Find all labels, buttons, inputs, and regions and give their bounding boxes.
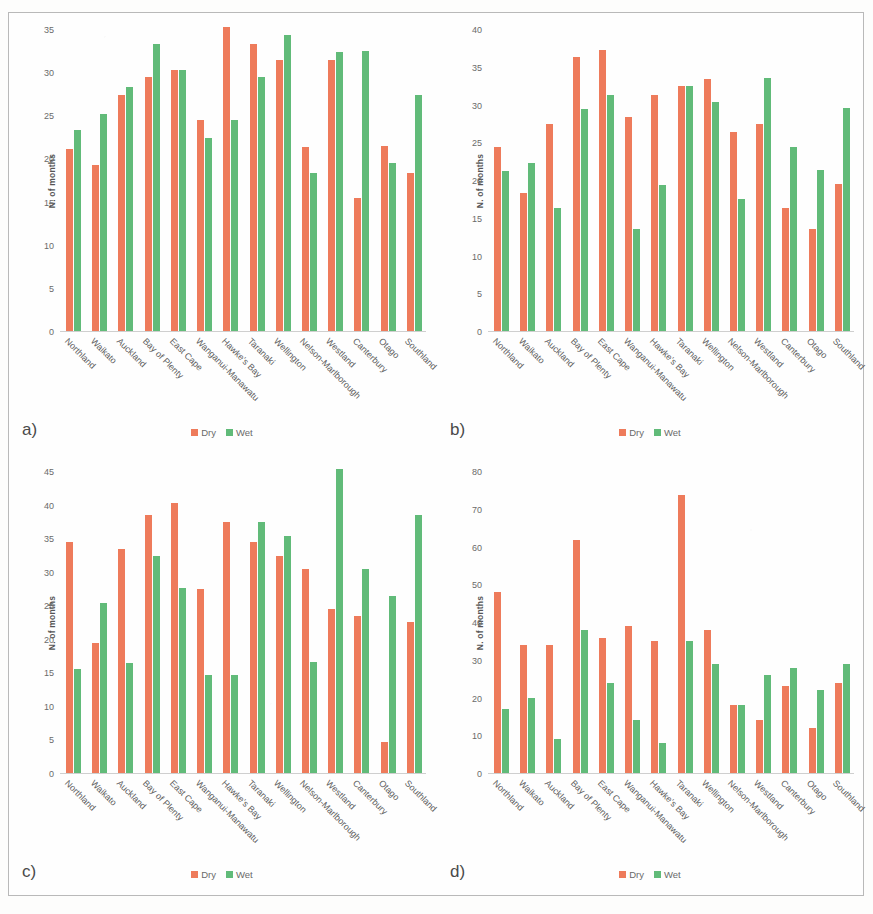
legend-item-dry: Dry [619,427,644,438]
bar-dry [678,495,685,773]
y-tick-label: 20 [472,176,482,186]
chart-legend: DryWet [8,427,436,438]
chart-panel-c: N. of months051015202530354045NorthlandW… [8,454,436,896]
y-tick-label: 15 [472,214,482,224]
chart-legend: DryWet [436,427,864,438]
y-tick-label: 25 [44,111,54,121]
plot-canvas [60,472,426,774]
bar-wet [336,52,343,331]
y-tick-label: 5 [49,284,54,294]
bar-group [92,472,107,773]
bar-wet [790,668,797,773]
bar-group [66,472,81,773]
x-tick-label: Southland [831,778,867,814]
bar-group [809,30,824,331]
bar-dry [756,124,763,331]
bar-wet [607,95,614,331]
bar-dry [92,165,99,331]
bar-wet [126,87,133,331]
bar-group [328,472,343,773]
bar-group [354,472,369,773]
bar-dry [625,117,632,331]
bar-wet [843,108,850,331]
bar-dry [599,50,606,331]
bar-wet [126,663,133,773]
bar-group [197,30,212,331]
scanned-figure-page: N. of months05101520253035NorthlandWaika… [0,0,873,914]
bar-dry [354,198,361,331]
bar-dry [328,609,335,773]
x-tick-label: Otago [377,336,401,360]
bar-group [407,30,422,331]
bar-wet [310,173,317,331]
bar-group [494,30,509,331]
legend-label: Wet [664,869,681,880]
bar-wet [843,664,850,773]
bar-wet [581,630,588,773]
legend-label: Dry [201,427,216,438]
bar-wet [100,114,107,331]
bar-dry [145,77,152,331]
bar-wet [284,35,291,331]
bar-groups [488,30,854,331]
y-tick-label: 10 [472,252,482,262]
bar-wet [738,199,745,331]
bar-wet [686,86,693,331]
bar-dry [835,184,842,331]
legend-swatch-icon [191,871,198,878]
bar-wet [607,683,614,773]
bar-dry [809,728,816,773]
bar-dry [250,44,257,331]
bar-group [625,30,640,331]
bar-group [118,30,133,331]
legend-swatch-icon [226,871,233,878]
panel-grid: N. of months05101520253035NorthlandWaika… [8,12,864,896]
bar-group [66,30,81,331]
bar-wet [258,522,265,774]
legend-item-wet: Wet [226,427,253,438]
bar-wet [205,675,212,773]
y-tick-label: 70 [472,505,482,515]
bar-wet [389,596,396,773]
bar-dry [704,630,711,773]
bar-group [250,30,265,331]
plot-area: N. of months0510152025303540 [488,30,854,332]
bar-dry [302,147,309,331]
bar-group [276,30,291,331]
bar-wet [686,641,693,773]
bar-group [92,30,107,331]
bar-dry [651,641,658,773]
bar-group [494,472,509,773]
chart-legend: DryWet [436,869,864,880]
bar-dry [835,683,842,773]
bar-wet [100,603,107,773]
bar-wet [790,147,797,331]
bar-dry [171,503,178,773]
bar-dry [730,705,737,773]
y-tick-label: 15 [44,198,54,208]
y-tick-label: 40 [44,501,54,511]
y-tick-label: 20 [44,154,54,164]
y-tick-label: 25 [44,601,54,611]
bar-dry [407,622,414,773]
y-tick-label: 10 [44,241,54,251]
bar-group [197,472,212,773]
x-tick-label: Otago [377,778,401,802]
bar-group [407,472,422,773]
bar-wet [362,51,369,331]
bar-dry [546,645,553,773]
y-tick-label: 25 [472,138,482,148]
legend-item-wet: Wet [226,869,253,880]
y-tick-label: 35 [44,25,54,35]
bar-dry [782,208,789,331]
plot-canvas [488,472,854,774]
bar-wet [153,44,160,331]
bar-dry [381,146,388,331]
y-tick-label: 10 [472,731,482,741]
bar-dry [678,86,685,331]
bar-wet [738,705,745,773]
bar-group [145,30,160,331]
y-tick-label: 45 [44,467,54,477]
bar-groups [60,472,426,773]
bar-dry [730,132,737,331]
